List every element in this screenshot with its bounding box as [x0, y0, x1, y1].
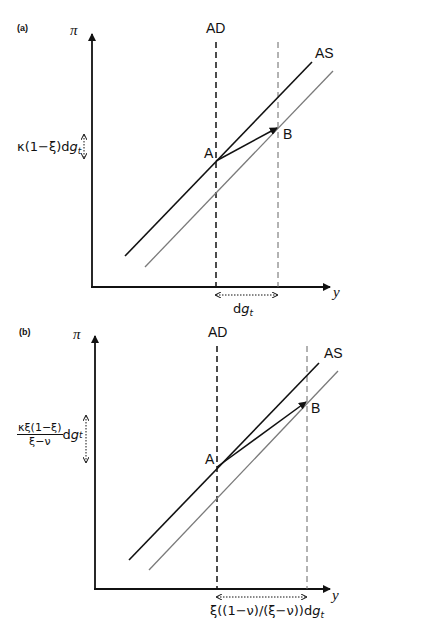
vertical-shift-prefix-a: κ(1−ξ)d	[17, 139, 69, 154]
vertical-shift-label-b: κξ(1−ξ) ξ−ν dgt	[17, 421, 83, 448]
as-shifted-line-b	[149, 371, 338, 570]
x-axis-label-b: y	[332, 587, 339, 604]
y-axis-label-b: π	[73, 326, 81, 343]
vertical-shift-sub-b: t	[79, 430, 83, 440]
horizontal-shift-label-a: dgt	[233, 301, 253, 318]
vertical-shift-denominator-b: ξ−ν	[29, 435, 51, 448]
vertical-shift-numerator-b: κξ(1−ξ)	[17, 421, 63, 435]
horizontal-shift-label-b: ξ((1−ν)/(ξ−ν))dgt	[210, 603, 324, 620]
movement-arrow-b	[217, 402, 306, 467]
panel-a-tag: (a)	[17, 23, 28, 33]
ad-label-b: AD	[208, 324, 227, 340]
horizontal-shift-var-a: g	[241, 301, 249, 316]
point-a-label-b: A	[205, 451, 214, 467]
vertical-shift-sub-a: t	[78, 146, 82, 156]
panel-b-tag: (b)	[19, 327, 31, 337]
y-axis-label-a: π	[70, 22, 78, 39]
x-axis-label-a: y	[333, 284, 340, 301]
vertical-shift-fraction-b: κξ(1−ξ) ξ−ν	[17, 421, 63, 448]
vertical-shift-suffix-b: d	[63, 427, 71, 442]
panel-a	[84, 34, 333, 295]
point-b-label-a: B	[283, 126, 292, 142]
vertical-shift-label-a: κ(1−ξ)dgt	[17, 139, 81, 156]
horizontal-shift-prefix-b: ξ((1−ν)/(ξ−ν))d	[210, 603, 312, 618]
point-b-label-b: B	[311, 400, 320, 416]
as-label-a: AS	[315, 45, 334, 61]
vertical-shift-var-b: g	[71, 427, 79, 442]
ad-label-a: AD	[206, 20, 225, 36]
vertical-shift-var-a: g	[69, 139, 77, 154]
point-a-label-a: A	[204, 145, 213, 161]
horizontal-shift-sub-a: t	[250, 308, 254, 318]
diagram-canvas	[0, 0, 438, 636]
as-label-b: AS	[324, 345, 343, 361]
horizontal-shift-sub-b: t	[320, 610, 324, 620]
movement-arrow-a	[216, 128, 277, 161]
as-shifted-line-a	[145, 71, 333, 267]
